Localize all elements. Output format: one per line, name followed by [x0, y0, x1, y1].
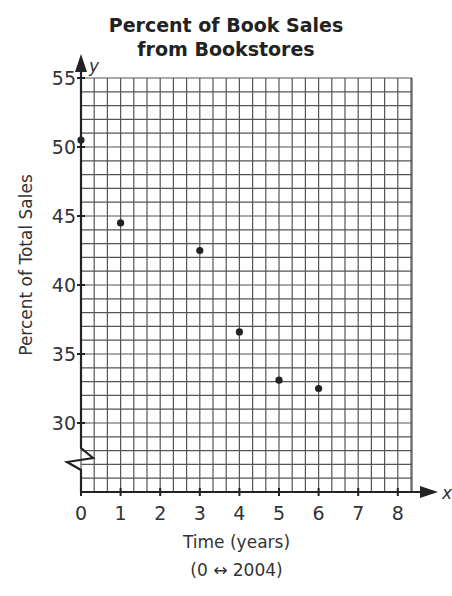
x-axis-arrow-icon [420, 486, 438, 498]
y-tick-label: 55 [52, 67, 76, 89]
data-point [236, 328, 243, 335]
x-tick-label: 3 [194, 502, 206, 524]
y-tick-label: 30 [52, 412, 76, 434]
y-tick-label: 50 [52, 136, 76, 158]
x-tick-label: 7 [352, 502, 364, 524]
x-axis-sublabel: (0 ↔ 2004) [190, 560, 282, 580]
x-tick-label: 4 [233, 502, 245, 524]
scatter-plot: yx012345678303540455055Time (years)(0 ↔ … [0, 0, 452, 596]
data-point [196, 247, 203, 254]
x-tick-label: 8 [392, 502, 404, 524]
y-axis-label: Percent of Total Sales [16, 174, 36, 356]
y-tick-label: 40 [52, 274, 76, 296]
x-tick-label: 0 [75, 502, 87, 524]
y-axis-arrow-icon [75, 54, 87, 72]
data-point [275, 377, 282, 384]
data-point [117, 219, 124, 226]
y-tick-label: 45 [52, 205, 76, 227]
y-tick-label: 35 [52, 343, 76, 365]
x-tick-label: 5 [273, 502, 285, 524]
x-axis-label: Time (years) [182, 532, 290, 552]
x-axis-letter: x [441, 483, 452, 503]
x-tick-label: 2 [154, 502, 166, 524]
x-tick-label: 6 [313, 502, 325, 524]
y-axis-letter: y [88, 56, 100, 76]
x-tick-label: 1 [115, 502, 127, 524]
data-point [77, 137, 84, 144]
data-point [315, 385, 322, 392]
